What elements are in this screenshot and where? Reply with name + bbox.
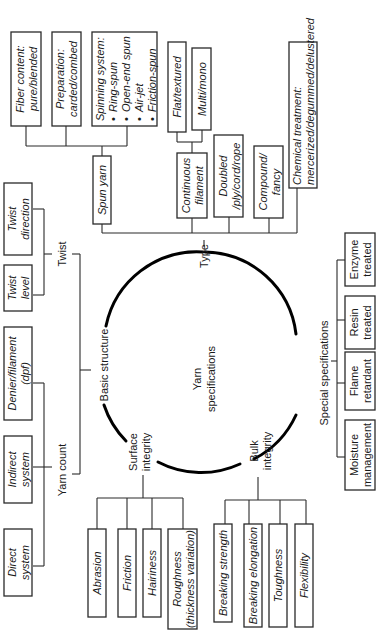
box-toughness: Toughness [269,524,287,627]
svg-text:Breaking strength: Breaking strength [217,530,229,616]
svg-text:treated: treated [361,242,373,276]
svg-text:Basic structure: Basic structure [98,329,110,402]
box-breaking-elongation: Breaking elongation [244,524,262,627]
svg-text:pure/blended: pure/blended [27,46,39,112]
surface-connectors [97,475,183,529]
box-friction: Friction [118,529,136,617]
svg-text:Open-end spun: Open-end spun [120,36,132,112]
svg-text:integrity: integrity [261,431,273,470]
box-fiber-content: Fiber content: pure/blended [11,32,41,126]
category-special-specifications: Special specifications [318,320,330,426]
svg-text:Enzyme: Enzyme [348,240,360,280]
bullet-icon: • [133,117,145,121]
arc-surface-to-basic [104,405,126,441]
svg-text:Flame: Flame [348,366,360,397]
label-twist: Twist [56,241,68,266]
box-flat-textured: Flat/textured [168,42,186,132]
svg-text:Spun yarn: Spun yarn [96,165,108,215]
box-doubled: Doubled /ply/cord/rope [214,135,243,217]
svg-text:(dpf): (dpf) [19,362,31,385]
category-basic-structure: Basic structure [98,329,110,402]
svg-text:Doubled: Doubled [217,155,229,197]
box-moisture-management: Moisture management [345,420,375,490]
center-label: Yarn specifications [191,345,217,412]
svg-text:treated: treated [361,305,373,339]
box-chemical-treatment: Chemical treatment: mercerized/degummed/… [289,17,317,188]
box-enzyme-treated: Enzyme treated [345,233,375,286]
svg-text:Roughness: Roughness [171,551,183,607]
svg-text:carded/combed: carded/combed [67,40,79,117]
svg-text:Yarn count: Yarn count [56,444,68,496]
svg-text:Hairiness: Hairiness [146,550,158,596]
svg-text:filament: filament [193,165,205,204]
svg-text:mercerized/degummed/delustered: mercerized/degummed/delustered [304,17,316,185]
bullet-icon: • [107,117,119,121]
svg-text:Air-jet: Air-jet [133,83,145,113]
bullet-icon: • [120,117,132,121]
svg-text:fancy: fancy [270,167,282,195]
bulk-connectors [225,477,306,524]
svg-text:Twist: Twist [6,275,18,301]
svg-text:level: level [19,276,31,299]
svg-text:Friction-spun: Friction-spun [146,48,158,112]
center-label-line2: specifications [205,345,217,412]
svg-text:Toughness: Toughness [272,548,284,602]
box-abrasion: Abrasion [88,529,106,617]
svg-text:Breaking elongation: Breaking elongation [247,527,259,624]
box-denier-filament: Denier/filament (dpf) [4,327,32,420]
svg-text:Twist: Twist [6,206,18,232]
category-bulk-integrity: Bulk integrity [248,431,273,470]
svg-text:Type: Type [198,244,210,268]
arc-bulk-to-surface [158,462,240,473]
box-direct-system: Direct system [4,529,32,596]
svg-text:Resin: Resin [348,308,360,336]
svg-text:Special specifications: Special specifications [318,320,330,426]
arc-type-to-basic [106,252,203,326]
box-flame-retardant: Flame retardant [345,352,375,410]
svg-text:Friction: Friction [121,555,133,591]
box-twist-level: Twist level [4,265,32,311]
yarn-specifications-diagram: Yarn specifications Type Basic structure… [0,0,384,639]
box-indirect-system: Indirect system [4,436,32,503]
svg-text:(thickness variation): (thickness variation) [184,530,196,628]
svg-text:Denier/filament: Denier/filament [6,336,18,411]
svg-text:direction: direction [19,198,31,240]
svg-text:Ring-spun: Ring-spun [107,62,119,112]
box-hairiness: Hairiness [143,529,161,617]
svg-text:/ply/cord/rope: /ply/cord/rope [230,143,242,211]
box-flexibility: Flexibility [295,524,313,627]
special-connectors [331,260,345,457]
box-spinning-system: Spinning system: • Ring-spun • Open-end … [92,32,158,126]
svg-text:Abrasion: Abrasion [91,551,103,595]
box-resin-treated: Resin treated [345,296,375,349]
svg-text:Compound/: Compound/ [257,153,269,211]
box-continuous-filament: Continuous filament [177,153,207,218]
label-yarn-count: Yarn count [56,444,68,496]
svg-text:Direct: Direct [6,547,18,577]
svg-text:Twist: Twist [56,241,68,266]
svg-text:Chemical treatment:: Chemical treatment: [291,87,303,185]
svg-text:Indirect: Indirect [6,451,18,488]
svg-text:Preparation:: Preparation: [54,49,66,109]
box-twist-direction: Twist direction [4,183,32,255]
svg-text:Spinning system:: Spinning system: [94,37,106,121]
box-breaking-strength: Breaking strength [214,524,232,622]
box-preparation: Preparation: carded/combed [52,32,81,126]
svg-text:Continuous: Continuous [180,157,192,213]
arc-type-to-special [205,252,296,334]
center-label-line1: Yarn [191,368,203,390]
category-surface-integrity: Surface integrity [127,432,152,471]
svg-text:system: system [19,545,31,580]
box-spun-yarn: Spun yarn [93,156,111,224]
svg-text:Surface: Surface [127,433,139,471]
svg-text:integrity: integrity [140,432,152,471]
svg-text:management: management [361,423,373,487]
box-multi-mono: Multi/mono [192,48,211,130]
svg-text:Bulk: Bulk [248,440,260,462]
svg-text:Fiber content:: Fiber content: [14,45,26,112]
svg-text:Moisture: Moisture [348,434,360,476]
svg-text:Flexibility: Flexibility [298,551,310,598]
svg-text:retardant: retardant [361,359,373,403]
box-compound-fancy: Compound/ fancy [254,146,283,218]
category-type: Type [198,244,210,268]
